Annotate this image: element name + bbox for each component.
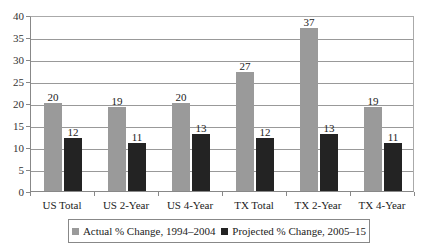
data-label: 12 <box>58 126 88 138</box>
y-tick-mark <box>26 82 30 83</box>
data-label: 19 <box>358 95 388 107</box>
gridline <box>31 83 413 84</box>
legend: Actual % Change, 1994–2004 Projected % C… <box>68 219 370 243</box>
x-tick-mark <box>286 192 287 196</box>
data-label: 11 <box>378 131 408 143</box>
data-label: 20 <box>166 91 196 103</box>
gridline <box>31 171 413 172</box>
legend-label-actual: Actual % Change, 1994–2004 <box>83 225 216 237</box>
data-label: 12 <box>250 126 280 138</box>
x-tick-mark <box>158 192 159 196</box>
bar-actual <box>108 107 126 191</box>
y-tick-label: 20 <box>4 98 24 110</box>
data-label: 37 <box>294 16 324 28</box>
x-category-label: TX 2-Year <box>286 199 350 211</box>
x-category-label: TX 4-Year <box>350 199 414 211</box>
legend-item-projected: Projected % Change, 2005–15 <box>221 225 366 237</box>
y-tick-mark <box>26 126 30 127</box>
y-tick-label: 5 <box>4 164 24 176</box>
y-tick-label: 30 <box>4 54 24 66</box>
x-category-label: TX Total <box>222 199 286 211</box>
y-tick-label: 25 <box>4 76 24 88</box>
bar-projected <box>128 143 146 191</box>
gridline <box>31 61 413 62</box>
y-tick-label: 10 <box>4 142 24 154</box>
bar-actual <box>172 103 190 191</box>
data-label: 11 <box>122 131 152 143</box>
data-label: 27 <box>230 60 260 72</box>
legend-swatch-projected-icon <box>221 228 228 235</box>
x-tick-mark <box>350 192 351 196</box>
y-tick-label: 15 <box>4 120 24 132</box>
y-tick-label: 35 <box>4 32 24 44</box>
x-tick-mark <box>30 192 31 196</box>
gridline <box>31 105 413 106</box>
y-tick-label: 40 <box>4 10 24 22</box>
bar-projected <box>64 138 82 191</box>
data-label: 13 <box>314 122 344 134</box>
gridline <box>31 149 413 150</box>
plot-area: 201219112013271237131911 <box>30 16 414 192</box>
bar-projected <box>192 134 210 191</box>
bar-projected <box>384 143 402 191</box>
gridline <box>31 127 413 128</box>
y-tick-mark <box>26 16 30 17</box>
x-tick-mark <box>414 192 415 196</box>
y-tick-mark <box>26 38 30 39</box>
x-category-label: US 2-Year <box>94 199 158 211</box>
x-tick-mark <box>94 192 95 196</box>
legend-label-projected: Projected % Change, 2005–15 <box>232 225 366 237</box>
x-category-label: US 4-Year <box>158 199 222 211</box>
data-label: 19 <box>102 95 132 107</box>
y-tick-label: 0 <box>4 186 24 198</box>
y-tick-mark <box>26 104 30 105</box>
legend-item-actual: Actual % Change, 1994–2004 <box>72 225 216 237</box>
y-tick-mark <box>26 148 30 149</box>
data-label: 13 <box>186 122 216 134</box>
bar-projected <box>256 138 274 191</box>
bar-actual <box>364 107 382 191</box>
x-category-label: US Total <box>30 199 94 211</box>
bar-actual <box>44 103 62 191</box>
y-tick-mark <box>26 170 30 171</box>
x-tick-mark <box>222 192 223 196</box>
data-label: 20 <box>38 91 68 103</box>
gridline <box>31 39 413 40</box>
y-tick-mark <box>26 60 30 61</box>
legend-swatch-actual-icon <box>72 228 79 235</box>
bar-actual <box>300 28 318 191</box>
bar-projected <box>320 134 338 191</box>
